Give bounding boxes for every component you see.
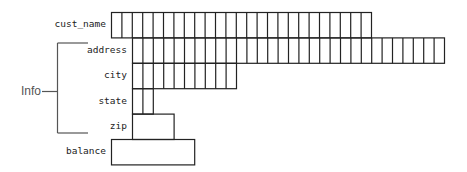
label-cust-name: cust_name bbox=[16, 18, 106, 30]
label-zip: zip bbox=[37, 120, 127, 132]
field-box-cust_name bbox=[112, 13, 372, 38]
label-balance: balance bbox=[16, 145, 106, 157]
group-label-info: Info bbox=[21, 84, 41, 98]
label-address: address bbox=[37, 44, 127, 56]
label-state: state bbox=[37, 95, 127, 107]
field-box-zip bbox=[133, 114, 175, 139]
field-box-balance bbox=[112, 140, 195, 165]
label-city: city bbox=[37, 69, 127, 81]
